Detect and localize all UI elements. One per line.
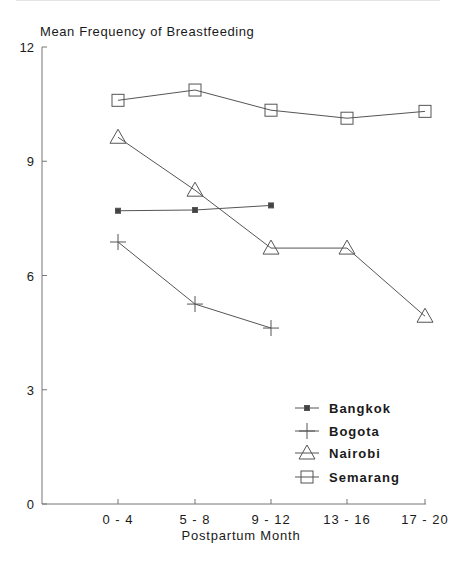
line-chart: 036912 0 - 45 - 89 - 1213 - 1617 - 20 Ba… xyxy=(0,0,454,576)
legend-label: Bangkok xyxy=(329,401,391,416)
x-tick-label: 5 - 8 xyxy=(179,512,210,527)
triangle-marker-icon xyxy=(339,240,355,254)
series-bangkok xyxy=(116,203,274,213)
series-nairobi xyxy=(110,129,433,322)
x-tick-label: 17 - 20 xyxy=(401,512,448,527)
square-marker-icon xyxy=(116,208,121,213)
x-tick-label: 0 - 4 xyxy=(102,512,133,527)
legend-item-bogota: Bogota xyxy=(295,423,380,439)
x-tick-labels: 0 - 45 - 89 - 1213 - 1617 - 20 xyxy=(102,512,448,527)
x-axis-label: Postpartum Month xyxy=(0,528,454,543)
square-marker-icon xyxy=(269,203,274,208)
triangle-marker-icon xyxy=(263,240,279,254)
series-group xyxy=(110,84,433,336)
square-marker-icon xyxy=(305,406,310,411)
legend-item-semarang: Semarang xyxy=(295,470,400,485)
series-line xyxy=(118,137,425,316)
y-tick-label: 9 xyxy=(27,154,34,169)
square-marker-icon xyxy=(193,207,198,212)
y-tick-label: 12 xyxy=(20,40,34,55)
legend-item-nairobi: Nairobi xyxy=(295,445,381,461)
y-tick-label: 6 xyxy=(27,269,34,284)
x-tick-label: 9 - 12 xyxy=(251,512,290,527)
y-tick-label: 0 xyxy=(27,497,34,512)
legend-label: Nairobi xyxy=(329,446,381,461)
legend-item-bangkok: Bangkok xyxy=(295,401,391,416)
legend-label: Bogota xyxy=(329,424,380,439)
series-line xyxy=(118,242,271,328)
legend-label: Semarang xyxy=(329,470,400,485)
triangle-marker-icon xyxy=(417,308,433,322)
series-bogota xyxy=(110,234,279,336)
y-tick-labels: 036912 xyxy=(20,40,34,512)
y-tick-label: 3 xyxy=(27,383,34,398)
series-semarang xyxy=(112,84,431,124)
x-tick-label: 13 - 16 xyxy=(323,512,370,527)
legend: BangkokBogotaNairobiSemarang xyxy=(295,401,400,485)
triangle-marker-icon xyxy=(299,445,315,459)
